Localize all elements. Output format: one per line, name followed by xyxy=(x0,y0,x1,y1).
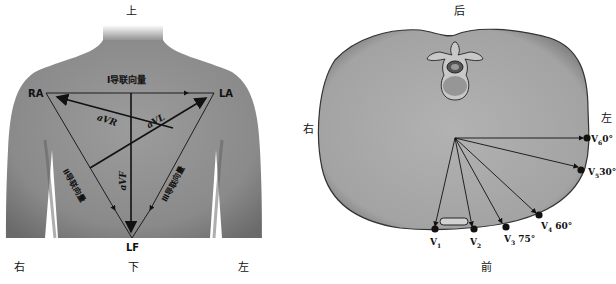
v2-electrode xyxy=(470,225,477,232)
limb-lead-diagram: 上 右 下 左 RA LA LF Ⅰ导联向量 aVR aVL aVF Ⅱ导联向量… xyxy=(0,0,290,284)
sternum-icon xyxy=(440,218,468,225)
direction-up-label: 上 xyxy=(126,6,137,18)
v5-label: V530° xyxy=(588,166,616,182)
torso-illustration xyxy=(0,0,290,284)
direction-right-label: 右 xyxy=(14,262,25,274)
avf-label: aVF xyxy=(117,171,129,190)
v2-label: V2 xyxy=(470,236,481,252)
direction-left-label: 左 xyxy=(238,262,249,274)
electrode-ra: RA xyxy=(28,88,43,100)
v1-label: V1 xyxy=(430,236,441,252)
v4-electrode xyxy=(535,211,542,218)
chest-lead-diagram: 后 前 右 左 V1 V2 V3 75° V4 60° V530° V60° xyxy=(300,0,614,284)
electrode-la: LA xyxy=(219,88,233,100)
direction-left-label: 左 xyxy=(601,113,612,125)
v3-label: V3 75° xyxy=(504,233,535,249)
thorax-cross-section xyxy=(300,0,614,284)
v3-electrode xyxy=(502,223,509,230)
v6-label: V60° xyxy=(591,133,613,149)
v6-electrode xyxy=(583,134,590,141)
direction-posterior-label: 后 xyxy=(454,6,465,18)
lead-i-label: Ⅰ导联向量 xyxy=(107,74,146,86)
direction-right-label: 右 xyxy=(303,124,314,136)
direction-anterior-label: 前 xyxy=(481,262,492,274)
v1-electrode xyxy=(431,225,438,232)
direction-down-label: 下 xyxy=(128,262,139,274)
v4-label: V4 60° xyxy=(541,220,572,236)
v5-electrode xyxy=(577,166,584,173)
electrode-lf: LF xyxy=(126,242,139,254)
